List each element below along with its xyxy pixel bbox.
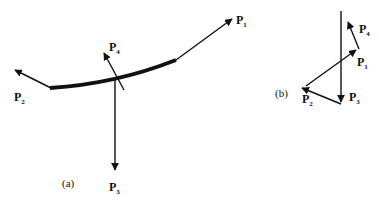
p2-force-arrow	[15, 70, 51, 88]
caption-a: (a)	[62, 177, 75, 190]
label-p2-a: P2	[14, 90, 25, 106]
label-p1-a: P1	[236, 13, 247, 29]
label-p4-a: P4	[109, 40, 120, 56]
label-p1-b: P1	[357, 55, 368, 71]
panel-a: P1 P2 P4 P3 (a)	[14, 13, 247, 196]
p1-vector	[306, 50, 356, 86]
caption-b: (b)	[275, 87, 288, 100]
label-p4-b: P4	[359, 22, 370, 38]
force-diagram: P1 P2 P4 P3 (a) P4 P1 P2 P3 (b)	[0, 0, 379, 204]
p1-force-arrow	[176, 19, 232, 60]
label-p3-b: P3	[349, 90, 360, 106]
panel-b: P4 P1 P2 P3 (b)	[275, 11, 370, 108]
label-p3-a: P3	[109, 180, 120, 196]
label-p2-b: P2	[302, 92, 313, 108]
p4-force-arrow	[104, 53, 124, 90]
p4-vector	[348, 22, 359, 49]
curved-beam	[50, 60, 176, 88]
